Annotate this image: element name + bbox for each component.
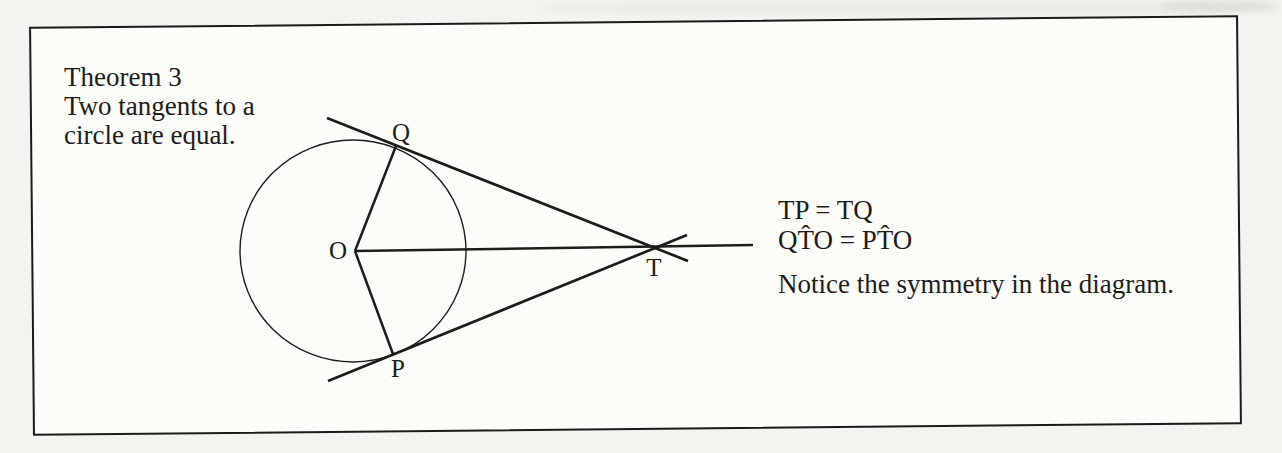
radius-OQ-line bbox=[355, 146, 396, 251]
label-T: T bbox=[646, 254, 661, 281]
label-Q: Q bbox=[392, 119, 410, 146]
tangent-equality: TP = TQ bbox=[778, 195, 1174, 225]
tangent-TQ-line bbox=[327, 118, 688, 261]
segment-OT-line bbox=[355, 245, 753, 251]
results-text: TP = TQ QT̂O = PT̂O Notice the symmetry … bbox=[778, 195, 1174, 299]
angle-equality: QT̂O = PT̂O bbox=[778, 225, 1174, 255]
label-O: O bbox=[329, 237, 347, 264]
tangent-TP-line bbox=[328, 235, 687, 381]
scanned-textbook-figure: { "colors": { "ink": "#1c1c1c", "frame_b… bbox=[0, 0, 1282, 453]
label-P: P bbox=[391, 355, 405, 382]
radius-OP-line bbox=[355, 251, 393, 354]
symmetry-note: Notice the symmetry in the diagram. bbox=[778, 269, 1174, 299]
